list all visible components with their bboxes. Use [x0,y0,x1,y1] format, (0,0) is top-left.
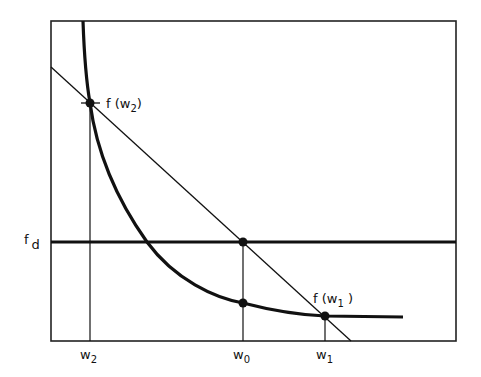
secant-diagram: f (w2) f (w1 ) fd w2 w0 w1 [0,0,481,377]
label-w1: w1 [316,347,333,365]
label-f-w1: f (w1 ) [313,291,353,309]
point-w0-curve [239,299,248,308]
label-w0: w0 [233,347,250,365]
point-f-w2 [86,99,95,108]
point-f-w1 [321,312,330,321]
label-f-d: fd [24,232,40,252]
secant-line [51,67,351,341]
point-w0-fd [239,238,248,247]
label-w2: w2 [80,347,97,365]
label-f-w2: f (w2) [106,96,142,114]
